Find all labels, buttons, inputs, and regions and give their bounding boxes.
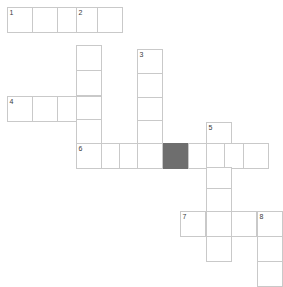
clue-number: 6 [79,144,83,153]
clue-number: 7 [183,212,187,221]
crossword-cell[interactable]: 8 [257,211,283,237]
clue-number: 1 [10,8,14,17]
clue-number: 2 [79,8,83,17]
crossword-cell[interactable]: 7 [180,211,206,237]
crossword-cell[interactable] [76,70,102,96]
crossword-cell[interactable] [76,45,102,71]
crossword-cell[interactable] [32,7,58,33]
clue-number: 4 [10,97,14,106]
crossword-cell[interactable]: 4 [7,96,33,122]
crossword-cell[interactable] [137,73,163,99]
clue-number: 3 [140,50,144,59]
crossword-cell[interactable] [206,211,232,237]
crossword-cell[interactable]: 6 [76,143,102,169]
clue-number: 5 [209,123,213,132]
crossword-cell[interactable] [206,236,232,262]
crossword-cell[interactable] [76,119,102,145]
crossword-cell[interactable] [257,261,283,287]
crossword-cell[interactable] [32,96,58,122]
crossword-cell[interactable]: 1 [7,7,33,33]
crossword-cell[interactable] [257,236,283,262]
crossword-cell[interactable] [231,211,257,237]
clue-number: 8 [260,212,264,221]
crossword-cell[interactable] [137,143,163,169]
crossword-cell[interactable] [243,143,269,169]
crossword-cell[interactable]: 3 [137,49,163,75]
crossword-cell[interactable] [97,7,123,33]
crossword-block-cell [163,143,189,169]
